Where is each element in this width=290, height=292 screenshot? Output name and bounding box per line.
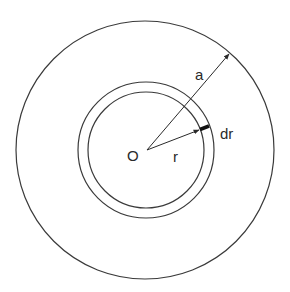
label-dr: dr bbox=[220, 125, 233, 142]
dr-segment bbox=[200, 126, 209, 130]
concentric-circles-diagram: a O r dr bbox=[0, 0, 290, 292]
outer-circle bbox=[16, 21, 274, 279]
radius-a-arrow bbox=[147, 54, 229, 150]
label-r: r bbox=[173, 148, 178, 165]
label-origin: O bbox=[127, 147, 139, 164]
radius-r-arrow bbox=[147, 130, 199, 150]
label-a: a bbox=[195, 66, 204, 83]
shell-inner-circle bbox=[88, 92, 204, 208]
shell-outer-circle bbox=[78, 82, 214, 218]
